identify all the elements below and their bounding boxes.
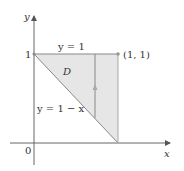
curve-label-hypotenuse: y = 1 − x	[36, 103, 84, 114]
point-0-1	[33, 53, 36, 56]
point-label-1-1: (1, 1)	[123, 49, 150, 60]
region-label: D	[62, 66, 71, 77]
y-axis-label: y	[23, 11, 30, 22]
origin-label: 0	[25, 145, 31, 156]
point-1-1	[116, 52, 120, 56]
region-diagram: y x 0 1 y = 1 D y = 1 − x (1, 1)	[0, 0, 184, 171]
y-tick-label: 1	[25, 49, 31, 60]
x-axis-label: x	[164, 148, 170, 159]
curve-label-top: y = 1	[57, 41, 85, 52]
